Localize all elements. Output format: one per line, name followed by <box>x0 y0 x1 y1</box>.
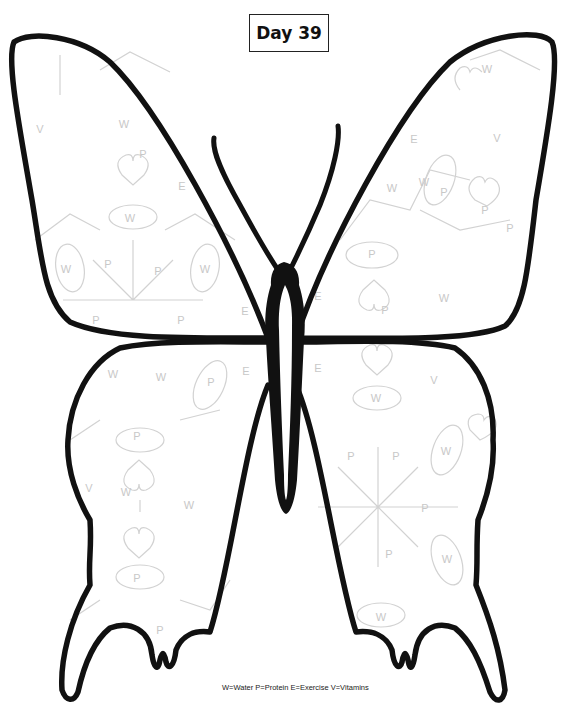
pattern-letter-lower-right-wing: E <box>314 362 321 374</box>
left-antenna <box>214 138 278 270</box>
pattern-letter-upper-left-wing: P <box>154 265 161 277</box>
pattern-letter-upper-left-wing: P <box>92 314 99 326</box>
pattern-letter-upper-left-wing: W <box>119 118 130 130</box>
pattern-letter-upper-right-wing: P <box>506 222 513 234</box>
pattern-letter-upper-right-wing: E <box>410 133 417 145</box>
pattern-letter-lower-right-wing: W <box>376 611 387 623</box>
pattern-letter-upper-left-wing: W <box>200 263 211 275</box>
pattern-letter-upper-right-wing: W <box>387 182 398 194</box>
pattern-letter-lower-right-wing: W <box>371 392 382 404</box>
legend: W=Water P=Protein E=Exercise V=Vitamins <box>222 683 369 692</box>
pattern-letter-lower-left-wing: W <box>108 368 119 380</box>
pattern-letter-upper-left-wing: V <box>36 123 44 135</box>
pattern-letter-upper-left-wing: P <box>139 148 146 160</box>
pattern-letter-upper-right-wing: W <box>482 63 493 75</box>
pattern-letter-upper-left-wing: W <box>125 212 136 224</box>
butterfly-illustration: VWPEWWPPWPPEWEVWWPPPPEWPWWPEPVWWPPEWVWPP… <box>0 0 563 713</box>
pattern-letter-upper-left-wing: W <box>61 263 72 275</box>
pattern-letter-upper-right-wing: P <box>381 304 388 316</box>
pattern-letter-upper-right-wing: P <box>481 204 488 216</box>
pattern-letter-upper-left-wing: E <box>178 180 185 192</box>
pattern-letter-lower-left-wing: P <box>207 376 214 388</box>
pattern-letter-upper-right-wing: V <box>493 132 501 144</box>
pattern-letter-lower-left-wing: W <box>121 486 132 498</box>
pattern-letter-upper-right-wing: W <box>419 176 430 188</box>
pattern-letter-lower-right-wing: P <box>347 450 354 462</box>
pattern-letter-upper-left-wing: P <box>177 314 184 326</box>
pattern-letter-lower-left-wing: P <box>133 572 140 584</box>
pattern-letter-upper-right-wing: P <box>440 186 447 198</box>
pattern-letter-lower-right-wing: W <box>441 445 452 457</box>
pattern-letter-lower-left-wing: W <box>156 371 167 383</box>
day-title: Day 39 <box>249 14 329 52</box>
pattern-letter-upper-right-wing: W <box>439 292 450 304</box>
pattern-letter-lower-right-wing: V <box>430 374 438 386</box>
pattern-letter-lower-left-wing: W <box>184 499 195 511</box>
pattern-letter-lower-right-wing: P <box>421 502 428 514</box>
pattern-letter-lower-left-wing: E <box>242 365 249 377</box>
pattern-letter-lower-right-wing: P <box>385 548 392 560</box>
pattern-letter-lower-right-wing: P <box>392 450 399 462</box>
lower-left-wing <box>62 342 268 699</box>
pattern-letter-upper-right-wing: P <box>368 248 375 260</box>
pattern-letter-lower-left-wing: V <box>85 482 93 494</box>
pattern-letter-lower-left-wing: P <box>133 430 140 442</box>
pattern-letter-lower-left-wing: P <box>156 624 163 636</box>
pattern-letter-upper-left-wing: E <box>241 305 248 317</box>
pattern-letter-upper-left-wing: P <box>104 258 111 270</box>
pattern-letter-lower-right-wing: W <box>442 553 453 565</box>
